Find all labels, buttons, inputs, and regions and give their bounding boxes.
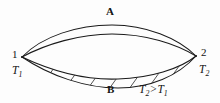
path-label-a: A (106, 6, 114, 17)
path-label-b: B (107, 84, 114, 95)
temperature-right-subscript: 2 (205, 69, 209, 78)
temperature-left-subscript: 1 (18, 70, 22, 79)
vertex-point-left (21, 56, 23, 58)
vertex-point-right (195, 55, 197, 57)
temperature-inequality: T2>T1 (139, 84, 168, 98)
figure-container: A B 1 2 T1 T2 T2>T1 (0, 0, 220, 103)
state-label-1: 1 (12, 49, 18, 60)
inequality-rhs-subscript: 1 (164, 89, 168, 98)
state-label-2: 2 (201, 47, 207, 58)
curve-path-a-outer (22, 25, 196, 57)
temperature-label-right: T2 (199, 64, 209, 78)
temperature-label-left: T1 (12, 65, 22, 79)
